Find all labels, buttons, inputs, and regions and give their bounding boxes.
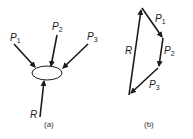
force-p3-arrow: [63, 44, 88, 68]
label-p3: P3: [87, 31, 98, 43]
force-p1-arrow: [14, 44, 35, 67]
label-p2: P2: [52, 21, 63, 33]
vector-p2: [159, 38, 163, 66]
label-p3: P3: [149, 79, 160, 91]
label-p2: P2: [164, 45, 175, 57]
label-p1: P1: [10, 32, 21, 44]
caption-b: (b): [144, 120, 154, 129]
diagram-svg: P1 P2 P3 R (a) P1 P2 P3 R (b): [0, 0, 193, 139]
panel-b: P1 P2 P3 R (b): [125, 8, 175, 129]
body-ellipse: [32, 66, 62, 80]
label-p1: P1: [155, 13, 166, 25]
force-p2-arrow: [51, 35, 57, 66]
panel-a: P1 P2 P3 R (a): [10, 21, 98, 129]
label-r: R: [125, 45, 132, 56]
label-r: R: [30, 109, 37, 120]
force-diagram: P1 P2 P3 R (a) P1 P2 P3 R (b): [0, 0, 193, 139]
caption-a: (a): [44, 120, 54, 129]
force-r-arrow: [40, 81, 44, 117]
